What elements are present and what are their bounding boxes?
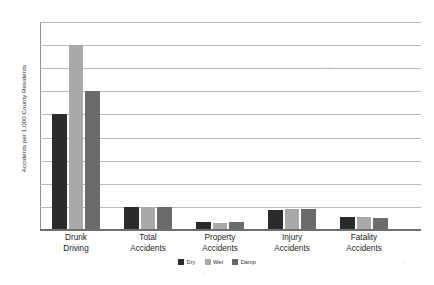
- bar-group: [268, 22, 316, 230]
- bar: [124, 207, 139, 230]
- legend-item-wet[interactable]: Wet: [205, 259, 224, 265]
- bar: [285, 209, 300, 230]
- x-category-label-line: Fatality: [324, 233, 404, 244]
- x-category-label: DrunkDriving: [36, 233, 116, 254]
- bar-group: [340, 22, 388, 230]
- legend-swatch-icon: [232, 259, 238, 265]
- chart-legend: DryWetDamp: [0, 259, 434, 265]
- x-axis-line: [40, 229, 421, 230]
- legend-label: Damp: [241, 259, 256, 265]
- x-category-label-line: Accidents: [252, 244, 332, 255]
- x-category-label: PropertyAccidents: [180, 233, 260, 254]
- bars-layer: [40, 22, 421, 230]
- x-axis-category-labels: DrunkDrivingTotalAccidentsPropertyAccide…: [40, 233, 421, 259]
- legend-label: Dry: [187, 259, 196, 265]
- x-category-label-line: Driving: [36, 244, 116, 255]
- bar-group: [52, 22, 100, 230]
- bar: [157, 207, 172, 230]
- bar: [301, 209, 316, 230]
- x-category-label-line: Injury: [252, 233, 332, 244]
- legend-label: Wet: [213, 259, 223, 265]
- bar-chart: Accidents per 1,000 County Residents 024…: [0, 0, 434, 285]
- x-category-label-line: Accidents: [180, 244, 260, 255]
- x-category-label-line: Total: [108, 233, 188, 244]
- x-category-label-line: Property: [180, 233, 260, 244]
- bar: [85, 91, 100, 230]
- bar: [69, 45, 84, 230]
- x-category-label-line: Accidents: [324, 244, 404, 255]
- legend-item-damp[interactable]: Damp: [232, 259, 256, 265]
- legend-item-dry[interactable]: Dry: [178, 259, 196, 265]
- bar-group: [196, 22, 244, 230]
- x-category-label-line: Drunk: [36, 233, 116, 244]
- x-category-label: FatalityAccidents: [324, 233, 404, 254]
- x-category-label: TotalAccidents: [108, 233, 188, 254]
- legend-swatch-icon: [205, 259, 211, 265]
- bar: [268, 210, 283, 230]
- x-category-label: InjuryAccidents: [252, 233, 332, 254]
- legend-swatch-icon: [178, 259, 184, 265]
- bar-group: [124, 22, 172, 230]
- plot-area: 024681012141618: [40, 22, 421, 230]
- x-category-label-line: Accidents: [108, 244, 188, 255]
- y-axis-title: Accidents per 1,000 County Residents: [20, 44, 27, 194]
- gridline-0: [40, 230, 421, 231]
- bar: [52, 114, 67, 230]
- bar: [141, 207, 156, 230]
